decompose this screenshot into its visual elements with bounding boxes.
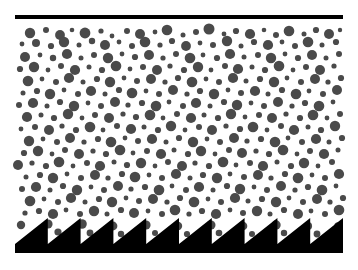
particle [257, 76, 263, 82]
particle [105, 175, 110, 180]
particle [280, 40, 285, 45]
particle [128, 67, 133, 72]
particle [315, 65, 325, 75]
particle [262, 67, 268, 73]
particle [130, 172, 141, 183]
particle [334, 205, 345, 216]
particle [55, 199, 61, 205]
particle [332, 85, 342, 95]
particle [38, 53, 43, 58]
particle [331, 100, 336, 105]
particle [77, 43, 82, 48]
particle [29, 62, 39, 72]
particle [103, 92, 108, 97]
particle [243, 115, 248, 120]
particle [331, 63, 336, 68]
particle [159, 211, 165, 217]
particle [33, 146, 43, 156]
particle [48, 209, 58, 219]
particle [274, 61, 285, 72]
particle [173, 51, 179, 57]
particle [45, 104, 50, 109]
particle [222, 63, 228, 69]
particle [325, 79, 330, 84]
particle [240, 210, 246, 216]
particle [271, 197, 281, 207]
particle [273, 32, 279, 38]
particle [114, 123, 120, 129]
particle [291, 89, 302, 100]
particle [314, 101, 325, 112]
particle [147, 173, 152, 178]
particle [339, 135, 345, 141]
particle [135, 138, 141, 144]
particle [25, 196, 36, 207]
particle [60, 183, 66, 189]
particle [262, 28, 267, 33]
particle [201, 53, 206, 58]
particle [183, 187, 189, 193]
particle [305, 184, 311, 190]
particle [186, 113, 196, 123]
particle [78, 175, 84, 181]
particle [224, 183, 230, 189]
particle [42, 197, 47, 202]
particle [142, 125, 147, 130]
particle [208, 104, 213, 109]
particle [126, 124, 136, 134]
particle [263, 40, 273, 50]
particle [270, 137, 281, 148]
particle [23, 76, 34, 87]
particle [259, 196, 265, 202]
particle [75, 91, 81, 97]
particle [193, 62, 203, 72]
particle [91, 52, 97, 58]
particle [311, 134, 321, 144]
particle [237, 148, 247, 158]
particle [21, 150, 27, 156]
particle [235, 184, 245, 194]
particle [118, 207, 124, 213]
particle [186, 211, 191, 216]
particle [46, 68, 51, 73]
particle [157, 42, 162, 47]
particle [200, 172, 206, 178]
particle [129, 208, 139, 218]
particle [223, 123, 228, 128]
particle [119, 171, 125, 177]
particle [87, 65, 92, 70]
particle [289, 103, 294, 108]
particle [265, 128, 270, 133]
particle [244, 79, 249, 84]
particle [307, 89, 312, 94]
particle [329, 159, 335, 165]
particle [57, 99, 63, 105]
particle [110, 34, 115, 39]
particle [177, 161, 187, 171]
particle [95, 136, 101, 142]
particle [172, 148, 177, 153]
particle [89, 38, 95, 44]
particle [136, 198, 142, 204]
particle [16, 102, 22, 108]
particle [196, 146, 206, 156]
particle [139, 100, 145, 106]
particle [80, 116, 85, 121]
particle [98, 103, 104, 109]
particle [309, 209, 314, 214]
particle [86, 101, 91, 106]
particle [228, 172, 233, 177]
particle [54, 157, 65, 168]
particle [96, 196, 102, 202]
particle [161, 116, 166, 121]
particle [136, 158, 146, 168]
top-lid-bar [15, 15, 343, 19]
particle [146, 74, 156, 84]
particle [165, 159, 171, 165]
particle [255, 52, 261, 58]
particle [84, 160, 90, 166]
particle [228, 208, 233, 213]
particle [216, 230, 223, 237]
particle [59, 123, 64, 128]
particle [95, 161, 105, 171]
